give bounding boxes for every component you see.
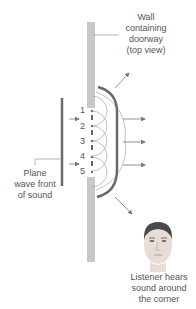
plane-wave-leader: [35, 159, 62, 165]
point-label-1: 1: [80, 105, 85, 115]
wall-label: Wall containing doorway (top view): [118, 12, 174, 56]
point-label-3: 3: [80, 136, 85, 146]
listener-face-icon: [144, 222, 172, 272]
wall-lower: [87, 177, 95, 262]
incident-arrows: [69, 119, 79, 164]
point-label-4: 4: [80, 151, 85, 161]
huygens-wavelets: [92, 92, 126, 190]
point-label-2: 2: [80, 121, 85, 131]
plane-wave-label: Plane wave front of sound: [10, 168, 60, 201]
doorway-opening: [91, 110, 93, 173]
outgoing-arrows: [115, 73, 145, 214]
listener-label: Listener hears sound around the corner: [126, 272, 192, 305]
point-label-5: 5: [80, 166, 85, 176]
